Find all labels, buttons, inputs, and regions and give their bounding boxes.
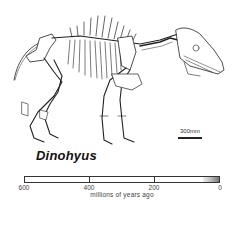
tick-200 — [154, 176, 155, 183]
hind-leg-icon — [30, 58, 62, 142]
tick-label-200: 200 — [149, 184, 160, 191]
tick-label-400: 400 — [84, 184, 95, 191]
skull-icon — [176, 28, 224, 74]
timeline-bar — [24, 176, 220, 183]
tick-label-0: 0 — [218, 184, 222, 191]
tick-label-600: 600 — [19, 184, 30, 191]
tick-400 — [89, 176, 90, 183]
species-name: Dinohyus — [36, 148, 97, 163]
scale-label: 300mm — [176, 128, 204, 135]
neck-icon — [140, 38, 178, 46]
tick-600 — [24, 176, 25, 183]
scale-bar: 300mm — [176, 128, 204, 142]
ribs-icon — [68, 40, 121, 79]
geologic-timeline: 600 400 200 0 millions of years ago — [24, 176, 221, 208]
tick-0 — [219, 176, 220, 183]
scale-line — [178, 137, 202, 139]
timeline-highlight — [203, 177, 219, 182]
timeline-axis-title: millions of years ago — [24, 191, 220, 198]
